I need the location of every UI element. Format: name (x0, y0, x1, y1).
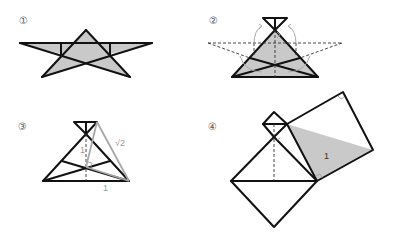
step-2: ② (208, 15, 342, 78)
step-4-number: ④ (208, 121, 217, 132)
step-3: ③ 1 √2 1 (18, 121, 129, 193)
step-2-number: ② (209, 15, 218, 26)
step-3-number: ③ (18, 121, 27, 132)
fold-arrow-right (288, 26, 296, 44)
step-4-shaded-triangle (287, 124, 373, 181)
hypotenuse-label: √2 (115, 138, 125, 148)
fold-arrow-left (254, 26, 262, 44)
step-1-number: ① (19, 15, 28, 26)
area-label: 1 (324, 151, 329, 161)
step-1: ① (19, 15, 152, 77)
step-4: ④ 1 (208, 92, 373, 227)
base-label: 1 (103, 183, 108, 193)
height-label: 1 (80, 145, 85, 155)
origami-folding-diagram: ① ② ③ (0, 0, 397, 235)
